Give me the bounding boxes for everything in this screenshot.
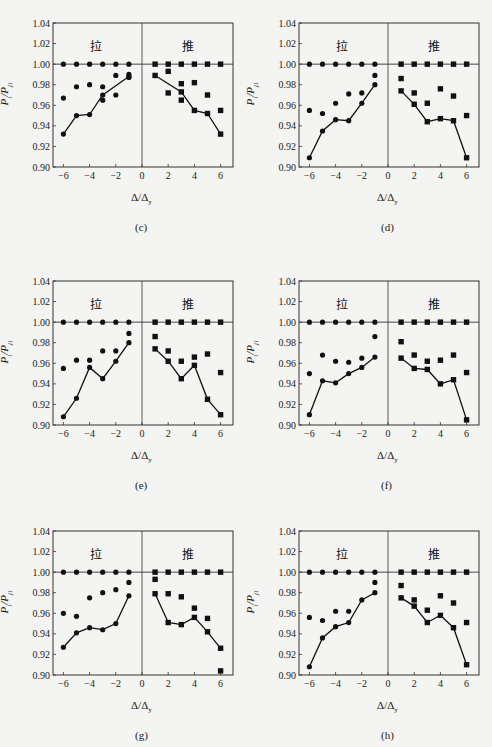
y-tick-label: 0.90 [33, 162, 51, 173]
square-marker [425, 608, 430, 613]
square-marker [438, 381, 443, 386]
square-marker [425, 101, 430, 106]
circle-marker [74, 320, 79, 325]
circle-marker [100, 348, 105, 353]
series-push-mid [398, 76, 469, 118]
square-marker [166, 61, 171, 66]
square-marker [218, 668, 223, 673]
y-tick-label: 1.02 [33, 546, 51, 557]
square-marker [438, 116, 443, 121]
square-marker [398, 76, 403, 81]
square-marker [412, 352, 417, 357]
y-tick-label: 1.04 [279, 526, 297, 537]
x-tick-label: −6 [58, 678, 69, 689]
square-marker [205, 92, 210, 97]
chart-panel-d: 1.041.021.000.980.960.940.920.90−6−4−202… [246, 0, 492, 249]
x-tick-label: 4 [438, 428, 443, 439]
square-marker [179, 61, 184, 66]
square-marker [179, 319, 184, 324]
chart-panel-e: 1.041.021.000.980.960.940.920.90−6−4−202… [0, 258, 246, 507]
square-marker [218, 370, 223, 375]
x-tick-label: −6 [304, 428, 315, 439]
circle-marker [87, 358, 92, 363]
square-marker [398, 61, 403, 66]
chart-panel-f: 1.041.021.000.980.960.940.920.90−6−4−202… [246, 258, 492, 507]
series-push-line [152, 73, 223, 137]
y-tick-label: 1.04 [33, 18, 51, 29]
square-marker [192, 354, 197, 359]
pull-side-label: 拉 [90, 297, 102, 312]
plot-area: 1.041.021.000.980.960.940.920.90−6−4−202… [246, 258, 492, 507]
circle-marker [333, 62, 338, 67]
y-tick-label: 1.02 [279, 546, 297, 557]
plot-area: 1.041.021.000.980.960.940.920.90−6−4−202… [0, 258, 246, 507]
push-side-label: 推 [182, 298, 194, 312]
push-side-label: 推 [428, 298, 440, 312]
x-tick-label: 0 [140, 678, 145, 689]
x-tick-label: −6 [304, 678, 315, 689]
push-side-label: 推 [182, 40, 194, 54]
circle-marker [346, 360, 351, 365]
square-marker [166, 620, 171, 625]
x-tick-label: −2 [110, 170, 121, 181]
circle-marker [333, 101, 338, 106]
square-marker [438, 613, 443, 618]
circle-marker [346, 609, 351, 614]
x-tick-label: 2 [412, 678, 417, 689]
pull-side-label: 拉 [336, 39, 348, 54]
circle-marker [126, 320, 131, 325]
x-tick-label: 0 [140, 428, 145, 439]
y-tick-label: 0.90 [279, 670, 297, 681]
circle-marker [126, 331, 131, 336]
series-push-mid [166, 69, 224, 113]
plot-area: 1.041.021.000.980.960.940.920.90−6−4−202… [0, 0, 246, 249]
y-tick-label: 0.94 [279, 378, 297, 389]
circle-marker [307, 371, 312, 376]
x-tick-label: −6 [58, 428, 69, 439]
x-tick-label: −6 [58, 170, 69, 181]
x-tick-label: 2 [412, 170, 417, 181]
panel-caption: (d) [381, 221, 394, 233]
circle-marker [333, 624, 338, 629]
square-marker [451, 61, 456, 66]
square-marker [425, 620, 430, 625]
y-tick-label: 1.00 [279, 567, 297, 578]
square-marker [398, 355, 403, 360]
x-axis-label: Δ/Δy [377, 449, 398, 464]
circle-marker [372, 590, 377, 595]
circle-marker [333, 380, 338, 385]
y-tick-label: 0.94 [279, 120, 297, 131]
circle-marker [87, 570, 92, 575]
circle-marker [61, 366, 66, 371]
square-marker [218, 412, 223, 417]
y-tick-label: 1.04 [33, 526, 51, 537]
square-marker [438, 86, 443, 91]
square-marker [398, 319, 403, 324]
x-tick-label: 4 [438, 678, 443, 689]
square-marker [205, 351, 210, 356]
square-marker [166, 319, 171, 324]
circle-marker [307, 320, 312, 325]
series-pull-mid [61, 72, 132, 103]
square-marker [192, 108, 197, 113]
circle-marker [100, 84, 105, 89]
y-tick-label: 1.02 [279, 38, 297, 49]
x-axis-label: Δ/Δy [131, 191, 152, 206]
square-marker [412, 90, 417, 95]
circle-marker [126, 340, 131, 345]
square-marker [425, 569, 430, 574]
circle-marker [307, 62, 312, 67]
square-marker [192, 363, 197, 368]
circle-marker [87, 112, 92, 117]
circle-marker [320, 570, 325, 575]
square-marker [451, 569, 456, 574]
circle-marker [372, 82, 377, 87]
series-push-mid [398, 339, 469, 375]
circle-marker [113, 92, 118, 97]
x-tick-label: 4 [192, 428, 197, 439]
square-marker [412, 102, 417, 107]
y-tick-label: 1.04 [279, 18, 297, 29]
circle-marker [346, 620, 351, 625]
circle-marker [333, 609, 338, 614]
square-marker [464, 569, 469, 574]
